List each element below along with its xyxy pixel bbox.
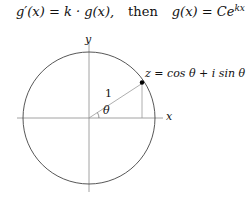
point-z bbox=[140, 80, 144, 84]
y-axis-label: y bbox=[85, 33, 91, 46]
radius-line bbox=[89, 82, 144, 118]
radius-label: 1 bbox=[105, 87, 112, 100]
angle-arc bbox=[97, 113, 99, 118]
angle-label: θ bbox=[103, 104, 110, 117]
x-axis-label: x bbox=[166, 110, 172, 123]
point-label: z = cos θ + i sin θ bbox=[145, 67, 245, 80]
unit-circle-diagram bbox=[0, 0, 250, 197]
